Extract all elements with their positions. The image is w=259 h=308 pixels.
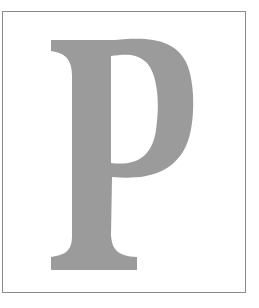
drop-cap-letter-p bbox=[0, 0, 259, 308]
